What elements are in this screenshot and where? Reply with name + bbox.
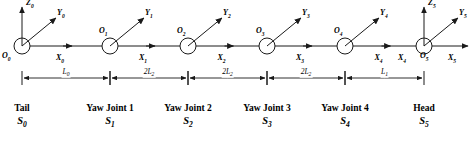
y-axis-arrow <box>424 18 458 46</box>
y-axis-arrow <box>22 18 56 46</box>
kinematic-chain-figure: O0Y0Z0X0O1Y1X1O2Y2X2O3Y3X3O4Y4X4O5Y5Z5X5… <box>0 0 476 141</box>
z-axis-label: Z0 <box>26 0 34 9</box>
y-axis-arrow <box>188 18 222 46</box>
dimension-label: L1 <box>380 67 389 78</box>
y-axis-arrow <box>345 18 379 46</box>
frame-caption-symbol: S3 <box>243 115 291 130</box>
x-axis-label: X5 <box>448 53 456 64</box>
coordinate-frames-group <box>14 7 458 54</box>
dimension-label: 2L2 <box>300 67 313 78</box>
x-axis-label: X1 <box>139 53 147 64</box>
dimension-label: L0 <box>62 67 71 78</box>
origin-label: O4 <box>334 26 343 37</box>
x-axis-label: X4 <box>374 53 382 64</box>
frame-caption: HeadS5 <box>413 103 435 130</box>
frame-caption-symbol: S2 <box>164 115 212 130</box>
y-axis-label: Y4 <box>380 8 388 19</box>
frame-caption-name: Head <box>413 103 435 114</box>
frame-caption-symbol: S1 <box>86 115 134 130</box>
x-axis-label-incoming: X4 <box>398 53 406 64</box>
frame-caption-symbol: S4 <box>321 115 369 130</box>
frame-caption-name: Tail <box>14 103 30 114</box>
frame-caption: Yaw Joint 2S2 <box>164 103 212 130</box>
frame-caption: TailS0 <box>14 103 30 130</box>
z-axis-label: Z5 <box>428 0 436 9</box>
frame-caption: Yaw Joint 3S3 <box>243 103 291 130</box>
y-axis-label: Y3 <box>302 8 310 19</box>
x-axis-label: X0 <box>56 53 64 64</box>
y-axis-label: Y5 <box>459 8 467 19</box>
y-axis-arrow <box>267 18 301 46</box>
figure-canvas <box>0 0 476 141</box>
frame-caption-symbol: S0 <box>14 115 30 130</box>
dimension-label: 2L2 <box>221 67 234 78</box>
origin-label: O0 <box>2 51 11 62</box>
frame-caption-name: Yaw Joint 4 <box>321 103 369 114</box>
y-axis-label: Y1 <box>145 8 153 19</box>
y-axis-label: Y0 <box>57 8 65 19</box>
x-axis-label: X2 <box>217 53 225 64</box>
origin-label: O1 <box>99 26 108 37</box>
y-axis-arrow <box>110 18 144 46</box>
y-axis-label: Y2 <box>223 8 231 19</box>
x-axis-label: X3 <box>296 53 304 64</box>
origin-label: O3 <box>256 26 265 37</box>
frame-caption-name: Yaw Joint 3 <box>243 103 291 114</box>
frame-caption: Yaw Joint 4S4 <box>321 103 369 130</box>
origin-label: O2 <box>177 26 186 37</box>
dimension-label: 2L2 <box>143 67 156 78</box>
frame-caption: Yaw Joint 1S1 <box>86 103 134 130</box>
origin-label: O5 <box>420 51 429 62</box>
frame-caption-name: Yaw Joint 2 <box>164 103 212 114</box>
frame-caption-symbol: S5 <box>413 115 435 130</box>
frame-caption-name: Yaw Joint 1 <box>86 103 134 114</box>
